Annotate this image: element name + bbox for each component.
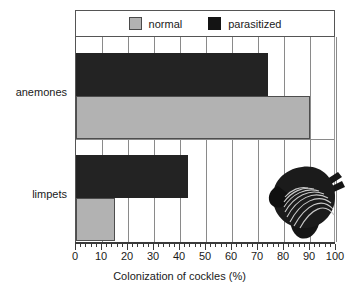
tick-68	[252, 244, 253, 247]
tick-60	[231, 244, 232, 250]
x-axis	[75, 242, 335, 244]
tick-80	[283, 244, 284, 250]
tick-36	[169, 244, 170, 247]
tick-label-40: 40	[173, 250, 185, 262]
bar-chart-figure: normal parasitized anemones limpets 0102…	[0, 0, 359, 295]
tick-16	[117, 244, 118, 247]
chart-legend: normal parasitized	[75, 10, 335, 37]
bar-anemones-parasitized	[76, 53, 268, 96]
legend-entry-normal: normal	[129, 17, 183, 30]
tick-8	[96, 244, 97, 247]
tick-label-50: 50	[199, 250, 211, 262]
tick-label-100: 100	[326, 250, 344, 262]
tick-28	[148, 244, 149, 247]
category-label-limpets: limpets	[32, 188, 67, 200]
tick-34	[163, 244, 164, 247]
tick-label-60: 60	[225, 250, 237, 262]
tick-12	[106, 244, 107, 247]
tick-48	[200, 244, 201, 247]
tick-30	[153, 244, 154, 250]
tick-0	[75, 244, 76, 250]
x-axis-title: Colonization of cockles (%)	[0, 270, 359, 282]
tick-40	[179, 244, 180, 250]
tick-58	[226, 244, 227, 247]
tick-6	[91, 244, 92, 247]
tick-26	[143, 244, 144, 247]
tick-90	[309, 244, 310, 250]
tick-72	[262, 244, 263, 247]
tick-label-0: 0	[72, 250, 78, 262]
normal-swatch-icon	[129, 17, 142, 30]
tick-46	[195, 244, 196, 247]
tick-4	[85, 244, 86, 247]
tick-86	[299, 244, 300, 247]
tick-label-10: 10	[95, 250, 107, 262]
tick-98	[330, 244, 331, 247]
tick-74	[267, 244, 268, 247]
tick-50	[205, 244, 206, 250]
tick-54	[215, 244, 216, 247]
tick-66	[247, 244, 248, 247]
tick-84	[293, 244, 294, 247]
tick-10	[101, 244, 102, 250]
tick-88	[304, 244, 305, 247]
tick-20	[127, 244, 128, 250]
tick-24	[137, 244, 138, 247]
legend-entry-parasitized: parasitized	[208, 17, 281, 30]
tick-label-90: 90	[303, 250, 315, 262]
tick-32	[158, 244, 159, 247]
tick-96	[325, 244, 326, 247]
legend-label-normal: normal	[149, 18, 183, 30]
tick-76	[273, 244, 274, 247]
category-label-anemones: anemones	[16, 86, 67, 98]
bar-anemones-normal	[76, 96, 310, 139]
bar-limpets-normal	[76, 198, 115, 241]
cockle-shell-illustration	[258, 150, 350, 242]
tick-2	[80, 244, 81, 247]
tick-label-80: 80	[277, 250, 289, 262]
tick-92	[314, 244, 315, 247]
parasitized-swatch-icon	[208, 17, 221, 30]
tick-14	[111, 244, 112, 247]
tick-44	[189, 244, 190, 247]
tick-62	[236, 244, 237, 247]
tick-label-20: 20	[121, 250, 133, 262]
tick-78	[278, 244, 279, 247]
bar-limpets-parasitized	[76, 155, 188, 198]
tick-82	[288, 244, 289, 247]
tick-label-70: 70	[251, 250, 263, 262]
tick-42	[184, 244, 185, 247]
tick-52	[210, 244, 211, 247]
tick-94	[319, 244, 320, 247]
tick-18	[122, 244, 123, 247]
tick-56	[221, 244, 222, 247]
tick-38	[174, 244, 175, 247]
tick-70	[257, 244, 258, 250]
tick-label-30: 30	[147, 250, 159, 262]
tick-22	[132, 244, 133, 247]
tick-100	[335, 244, 336, 250]
legend-label-parasitized: parasitized	[228, 18, 281, 30]
tick-64	[241, 244, 242, 247]
